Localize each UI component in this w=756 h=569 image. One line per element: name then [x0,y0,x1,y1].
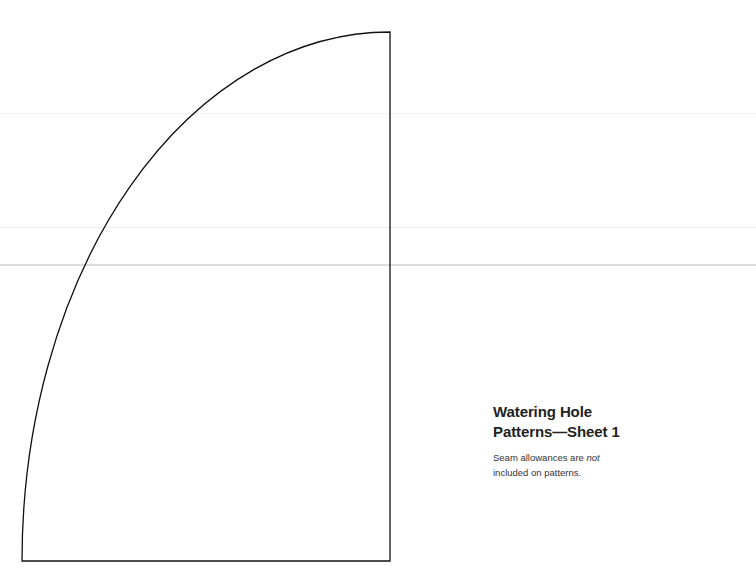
sheet-title: Watering Hole Patterns—Sheet 1 [493,402,693,442]
sheet-caption: Watering Hole Patterns—Sheet 1 Seam allo… [493,402,693,480]
seam-allowance-note: Seam allowances are not included on patt… [493,450,693,480]
sheet-title-line2: Patterns—Sheet 1 [493,423,620,440]
note-prefix: Seam allowances are [493,452,586,463]
note-line2: included on patterns. [493,467,581,478]
sheet-title-line1: Watering Hole [493,403,592,420]
pattern-piece-outline [0,0,756,569]
note-emphasis: not [586,452,599,463]
